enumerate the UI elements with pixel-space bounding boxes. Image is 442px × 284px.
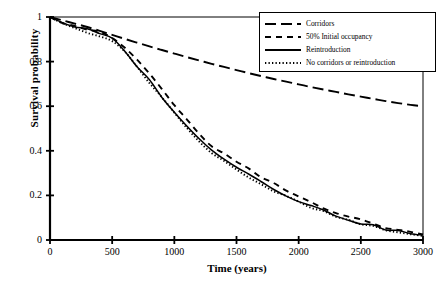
x-tick-label: 500 xyxy=(92,246,132,257)
y-axis-label: Survival probability xyxy=(28,0,40,158)
x-tick-label: 0 xyxy=(30,246,70,257)
y-tick-label: 0.6 xyxy=(8,100,42,111)
legend-label-corridors: Corridors xyxy=(306,20,334,27)
legend: Corridors 50% Initial occupancy Reintrod… xyxy=(259,12,436,72)
legend-item[interactable]: No corridors or reintroduction xyxy=(260,56,435,69)
y-tick-label: 0 xyxy=(8,234,42,245)
legend-item[interactable]: Corridors xyxy=(260,17,435,30)
legend-label-no-corridors: No corridors or reintroduction xyxy=(306,59,395,66)
legend-label-initial-occupancy: 50% Initial occupancy xyxy=(306,33,373,40)
y-tick-label: 0.4 xyxy=(8,145,42,156)
x-tick-label: 2000 xyxy=(279,246,319,257)
x-axis-label: Time (years) xyxy=(50,262,424,274)
legend-swatch-no-corridors xyxy=(265,57,301,69)
y-tick-label: 0.8 xyxy=(8,56,42,67)
x-tick-label: 3000 xyxy=(403,246,442,257)
y-tick-label: 0.2 xyxy=(8,189,42,200)
legend-swatch-initial-occupancy xyxy=(265,31,301,43)
y-tick-label: 1 xyxy=(8,11,42,22)
x-tick-label: 2500 xyxy=(341,246,381,257)
figure: Survival probability Time (years) 00.20.… xyxy=(0,0,442,284)
x-tick-label: 1000 xyxy=(154,246,194,257)
legend-item[interactable]: 50% Initial occupancy xyxy=(260,30,435,43)
legend-swatch-corridors xyxy=(265,18,301,30)
legend-swatch-reintroduction xyxy=(265,44,301,56)
legend-item[interactable]: Reintroduction xyxy=(260,43,435,56)
legend-label-reintroduction: Reintroduction xyxy=(306,46,350,53)
x-tick-label: 1500 xyxy=(217,246,257,257)
